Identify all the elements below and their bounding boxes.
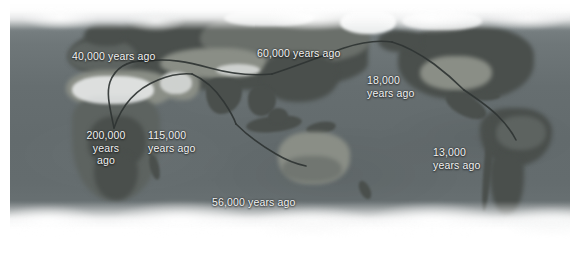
route-africa-to-europe	[108, 61, 148, 128]
page-margin-top	[0, 0, 581, 4]
label-australia-56k: 56,000 years ago	[212, 196, 322, 209]
route-namerica-to-samerica	[464, 90, 516, 140]
page-margin-left	[0, 0, 10, 271]
satellite-map-image: 40,000 years ago 60,000 years ago 18,000…	[10, 4, 571, 247]
migration-routes-overlay	[10, 4, 571, 247]
label-beringia-18k: 18,000 years ago	[367, 74, 447, 99]
route-asia-branch-south	[192, 74, 236, 124]
label-europe-40k: 40,000 years ago	[72, 50, 182, 63]
route-africa-to-arabia	[114, 74, 192, 128]
figure-container: 40,000 years ago 60,000 years ago 18,000…	[0, 0, 581, 271]
label-africa-200k: 200,000 years ago	[70, 129, 142, 167]
page-margin-bottom	[0, 249, 581, 271]
world-map-figure: 40,000 years ago 60,000 years ago 18,000…	[0, 0, 581, 271]
label-asia-60k: 60,000 years ago	[257, 47, 367, 60]
page-margin-right	[570, 0, 581, 271]
route-asia-to-australia	[236, 124, 306, 166]
label-arabia-115k: 115,000 years ago	[148, 129, 228, 154]
label-samerica-13k: 13,000 years ago	[433, 146, 513, 171]
